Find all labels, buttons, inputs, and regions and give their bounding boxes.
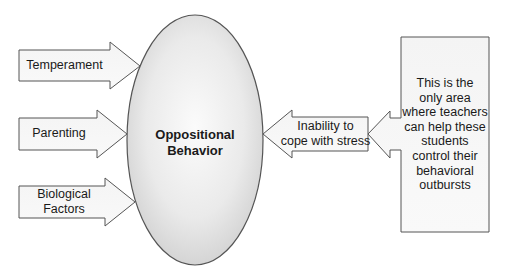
biological-factors-line1: Biological bbox=[19, 187, 109, 202]
center-label-line2: Behavior bbox=[135, 143, 255, 159]
stress-label-line2: cope with stress bbox=[278, 134, 373, 149]
biological-factors-line2: Factors bbox=[19, 202, 109, 217]
parenting-label: Parenting bbox=[19, 126, 99, 141]
callout-line: This is the bbox=[401, 76, 489, 91]
callout-line: control their bbox=[401, 149, 489, 164]
stress-label: Inability to cope with stress bbox=[278, 119, 373, 149]
callout-line: outbursts bbox=[401, 178, 489, 193]
temperament-label: Temperament bbox=[19, 58, 110, 73]
callout-line: behavioral bbox=[401, 164, 489, 179]
biological-factors-label: Biological Factors bbox=[19, 187, 109, 217]
center-label-line1: Oppositional bbox=[135, 127, 255, 143]
callout-line: students bbox=[401, 134, 489, 149]
callout-line: only area bbox=[401, 91, 489, 106]
callout-line: where teachers bbox=[401, 105, 489, 120]
callout-label: This is the only area where teachers can… bbox=[401, 76, 489, 193]
center-label: Oppositional Behavior bbox=[135, 127, 255, 159]
callout-line: can help these bbox=[401, 120, 489, 135]
stress-label-line1: Inability to bbox=[278, 119, 373, 134]
temperament-text: Temperament bbox=[26, 58, 102, 72]
parenting-text: Parenting bbox=[32, 126, 86, 140]
